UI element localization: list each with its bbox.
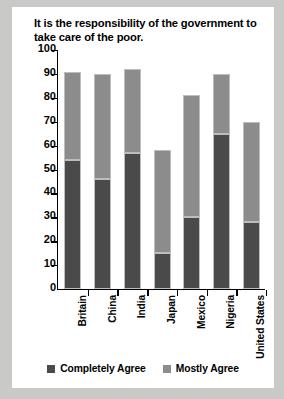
y-axis-tick-label: 80 [44, 90, 56, 102]
bar-segment-mostly-agree [154, 150, 171, 253]
y-axis-tick-label: 30 [44, 209, 56, 221]
x-axis-category-label: United States [255, 295, 266, 359]
y-axis-tick: 40 [20, 193, 68, 194]
y-axis-tick-label: 20 [44, 233, 56, 245]
y-axis-tick: 70 [20, 122, 68, 123]
y-axis-tick-mark [51, 217, 58, 218]
y-axis-tick: 30 [20, 217, 68, 218]
y-axis-tick-label: 40 [44, 185, 56, 197]
bar-group [243, 43, 260, 289]
chart-figure: It is the responsibility of the governme… [12, 7, 274, 388]
y-axis-tick-mark [51, 265, 58, 266]
bar-segment-completely-agree [124, 153, 141, 289]
y-axis-tick: 80 [20, 98, 68, 99]
bar-segment-completely-agree [243, 222, 260, 289]
y-axis-tick-mark [51, 122, 58, 123]
y-axis-tick-mark [51, 193, 58, 194]
bar-segment-mostly-agree [64, 72, 81, 160]
y-axis-tick-label: 70 [44, 114, 56, 126]
legend-item: Mostly Agree [163, 363, 239, 374]
bar-segment-mostly-agree [183, 95, 200, 217]
y-axis-tick-label: 90 [44, 66, 56, 78]
x-axis-category-label: Britain [77, 295, 88, 327]
x-axis-category-labels: BritainChinaIndiaJapanMexicoNigeriaUnite… [20, 295, 266, 357]
y-axis-tick: 60 [20, 146, 68, 147]
bar-segment-completely-agree [183, 217, 200, 289]
y-axis-tick-mark [51, 241, 58, 242]
y-axis-tick: 100 [20, 50, 68, 51]
y-axis-tick-mark [51, 170, 58, 171]
y-axis-tick: 20 [20, 241, 68, 242]
bar-group [183, 43, 200, 289]
bar-segment-completely-agree [64, 160, 81, 289]
y-axis-tick-mark [51, 50, 58, 51]
chart-title: It is the responsibility of the governme… [34, 17, 264, 44]
legend-item: Completely Agree [47, 363, 146, 374]
bar-segment-mostly-agree [213, 74, 230, 134]
x-axis-tick-mark [266, 290, 267, 296]
y-axis-tick-mark [51, 74, 58, 75]
y-axis-tick-mark [51, 146, 58, 147]
bar-group [154, 43, 171, 289]
legend-label: Mostly Agree [176, 363, 239, 374]
bar-segment-mostly-agree [124, 69, 141, 153]
x-axis-category-label: Japan [166, 295, 177, 324]
legend-swatch-icon [163, 365, 171, 373]
plot-area: 0102030405060708090100 [20, 43, 266, 289]
y-axis-tick-label: 50 [44, 162, 56, 174]
y-axis-tick: 10 [20, 265, 68, 266]
x-axis-category-label: India [136, 295, 147, 318]
x-axis-category-label: China [107, 295, 118, 323]
y-axis-tick-label: 60 [44, 138, 56, 150]
bar-segment-completely-agree [94, 179, 111, 289]
y-axis-tick-mark [51, 98, 58, 99]
bar-group [94, 43, 111, 289]
chart-legend: Completely AgreeMostly Agree [12, 363, 274, 374]
y-axis-tick: 50 [20, 170, 68, 171]
bar-segment-mostly-agree [94, 74, 111, 179]
bar-group [213, 43, 230, 289]
y-axis-tick-label: 100 [38, 42, 56, 54]
y-axis-tick: 90 [20, 74, 68, 75]
bar-segment-completely-agree [154, 253, 171, 289]
bar-segment-completely-agree [213, 134, 230, 289]
bar-segment-mostly-agree [243, 122, 260, 222]
legend-label: Completely Agree [60, 363, 146, 374]
bar-group [124, 43, 141, 289]
legend-swatch-icon [47, 365, 55, 373]
x-axis-category-label: Nigeria [225, 295, 236, 329]
y-axis-tick-label: 0 [50, 281, 56, 293]
y-axis-tick-label: 10 [44, 257, 56, 269]
x-axis-category-label: Mexico [196, 295, 207, 329]
y-axis-tick: 0 [20, 289, 68, 290]
bar-group [64, 43, 81, 289]
